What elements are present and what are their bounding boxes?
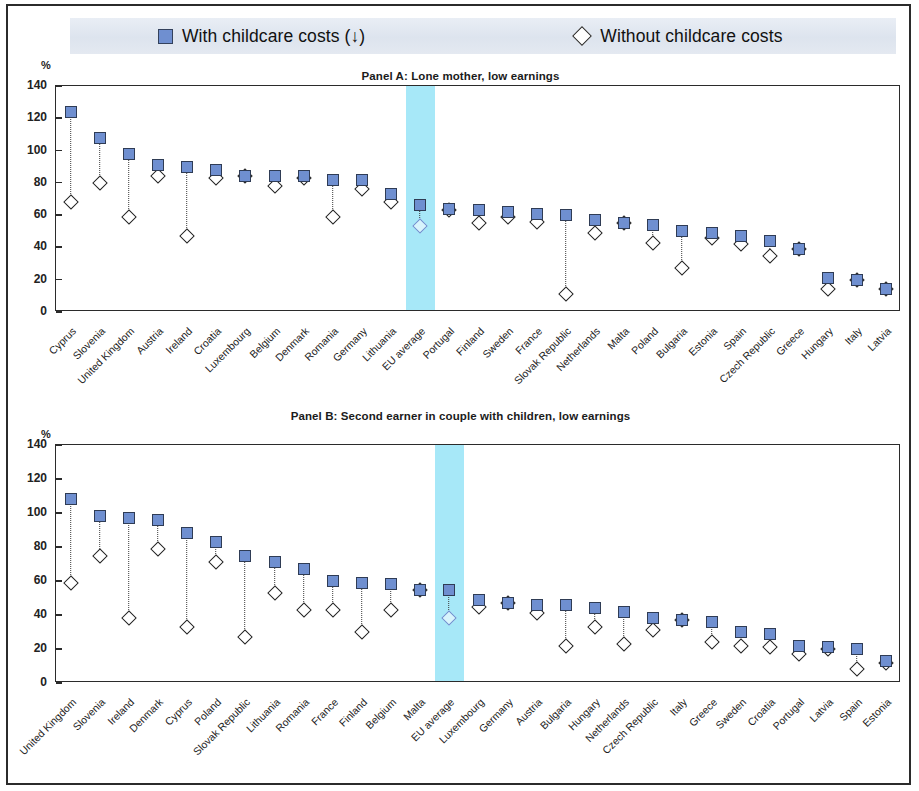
- without-childcare-marker: [471, 215, 487, 231]
- with-childcare-marker: [181, 161, 193, 173]
- without-childcare-marker: [587, 225, 603, 241]
- with-childcare-marker: [356, 577, 368, 589]
- with-childcare-marker: [473, 594, 485, 606]
- connector-line: [186, 167, 187, 236]
- with-childcare-marker: [880, 655, 892, 667]
- y-axis-tick-mark: [56, 85, 62, 87]
- y-axis-tick-mark: [56, 150, 62, 152]
- without-childcare-marker: [267, 585, 283, 601]
- eu-average-highlight-band: [406, 86, 435, 310]
- with-childcare-marker: [560, 209, 572, 221]
- connector-line: [128, 154, 129, 217]
- y-axis-tick-mark: [56, 444, 62, 446]
- without-childcare-marker: [850, 662, 866, 678]
- with-childcare-marker: [589, 602, 601, 614]
- with-childcare-marker: [414, 584, 426, 596]
- with-childcare-marker: [589, 214, 601, 226]
- with-childcare-marker: [152, 514, 164, 526]
- y-axis-tick-label: 20: [13, 272, 47, 286]
- without-childcare-marker: [92, 175, 108, 191]
- with-childcare-marker: [385, 578, 397, 590]
- with-childcare-marker: [239, 170, 251, 182]
- y-axis-tick-mark: [56, 214, 62, 216]
- y-axis-tick-mark: [56, 546, 62, 548]
- y-axis-tick-mark: [56, 182, 62, 184]
- without-childcare-marker: [383, 602, 399, 618]
- with-childcare-marker: [880, 283, 892, 295]
- with-childcare-marker: [618, 606, 630, 618]
- y-axis-tick-label: 60: [13, 573, 47, 587]
- with-childcare-marker: [298, 170, 310, 182]
- with-childcare-marker: [676, 225, 688, 237]
- without-childcare-marker: [558, 286, 574, 302]
- with-childcare-marker: [793, 243, 805, 255]
- panel-b-x-axis-labels: United KingdomSloveniaIrelandDenmarkCypr…: [8, 685, 913, 791]
- panel-a-plot-area: [55, 85, 900, 311]
- without-childcare-marker: [616, 636, 632, 652]
- without-childcare-marker: [121, 611, 137, 627]
- with-childcare-marker: [327, 575, 339, 587]
- y-axis-tick-label: 120: [13, 110, 47, 124]
- without-childcare-marker: [325, 602, 341, 618]
- panel-a-title: Panel A: Lone mother, low earnings: [8, 70, 913, 82]
- legend-entry-with-childcare: With childcare costs (↓): [158, 26, 365, 47]
- with-childcare-marker: [210, 164, 222, 176]
- y-axis-tick-label: 80: [13, 175, 47, 189]
- without-childcare-marker: [646, 235, 662, 251]
- with-childcare-marker: [531, 208, 543, 220]
- y-axis-tick-mark: [56, 279, 62, 281]
- with-childcare-marker: [560, 599, 572, 611]
- with-childcare-marker: [443, 203, 455, 215]
- with-childcare-marker: [269, 170, 281, 182]
- with-childcare-marker: [473, 204, 485, 216]
- without-childcare-marker: [354, 624, 370, 640]
- panel-a: % Panel A: Lone mother, low earnings 020…: [8, 58, 913, 406]
- with-childcare-marker: [822, 272, 834, 284]
- panel-b: Panel B: Second earner in couple with ch…: [8, 406, 913, 784]
- without-childcare-marker: [63, 194, 79, 210]
- panel-b-plot-area: [55, 444, 900, 682]
- without-childcare-marker: [675, 261, 691, 277]
- connector-line: [186, 533, 187, 627]
- without-childcare-marker: [121, 209, 137, 225]
- connector-line: [70, 112, 71, 202]
- without-childcare-marker: [150, 541, 166, 557]
- with-childcare-marker: [851, 274, 863, 286]
- with-childcare-marker: [123, 512, 135, 524]
- without-childcare-marker: [208, 555, 224, 571]
- panel-b-title: Panel B: Second earner in couple with ch…: [8, 410, 913, 422]
- legend-entry-without-childcare: Without childcare costs: [575, 26, 782, 47]
- connector-line: [565, 215, 566, 294]
- with-childcare-marker: [647, 612, 659, 624]
- with-childcare-marker: [676, 614, 688, 626]
- y-axis-tick-label: 100: [13, 505, 47, 519]
- y-axis-tick-label: 20: [13, 641, 47, 655]
- y-axis-tick-mark: [56, 682, 62, 684]
- with-childcare-marker: [181, 527, 193, 539]
- without-childcare-marker: [587, 619, 603, 635]
- without-childcare-marker: [646, 623, 662, 639]
- with-childcare-marker: [502, 206, 514, 218]
- with-childcare-marker: [385, 188, 397, 200]
- y-axis-tick-label: 140: [13, 437, 47, 451]
- y-axis-tick-mark: [56, 478, 62, 480]
- y-axis-tick-label: 40: [13, 239, 47, 253]
- without-childcare-marker: [325, 209, 341, 225]
- legend-label-with-childcare: With childcare costs (↓): [182, 26, 365, 47]
- y-axis-tick-mark: [56, 580, 62, 582]
- filled-square-marker-icon: [158, 29, 173, 44]
- chart-legend: With childcare costs (↓) Without childca…: [70, 18, 896, 54]
- without-childcare-marker: [762, 640, 778, 656]
- y-axis-tick-label: 40: [13, 607, 47, 621]
- without-childcare-marker: [179, 619, 195, 635]
- with-childcare-marker: [414, 199, 426, 211]
- y-axis-tick-label: 140: [13, 78, 47, 92]
- with-childcare-marker: [356, 174, 368, 186]
- with-childcare-marker: [239, 550, 251, 562]
- without-childcare-marker: [733, 638, 749, 654]
- with-childcare-marker: [94, 510, 106, 522]
- without-childcare-marker: [704, 634, 720, 650]
- with-childcare-marker: [298, 563, 310, 575]
- y-axis-tick-label: 80: [13, 539, 47, 553]
- connector-line: [70, 499, 71, 582]
